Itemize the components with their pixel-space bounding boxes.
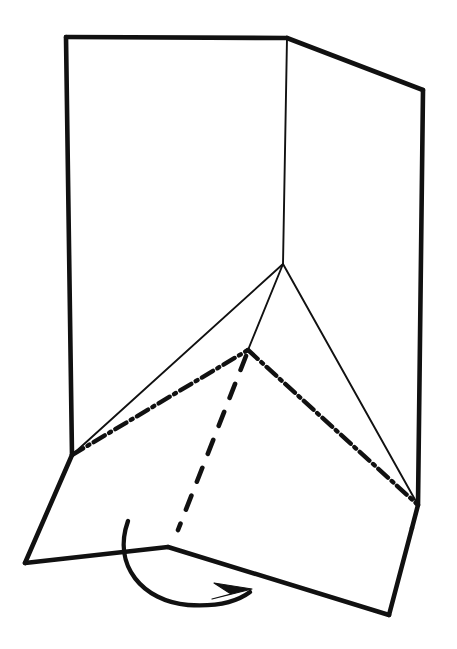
edge-flap-right [389, 528, 412, 615]
edge-right-vertical [412, 90, 423, 528]
edge-flap-left [25, 455, 72, 563]
bottom-flap-group [25, 455, 412, 615]
figure-canvas [0, 0, 457, 649]
edge-top-right-slope [287, 38, 423, 90]
fold-line-to-apex [248, 264, 283, 350]
folding-diagram-svg [0, 0, 457, 649]
fold-line-to-right-vertex [283, 264, 418, 505]
fold-line-center-vertical [283, 38, 287, 264]
rotation-arrow-group [124, 521, 252, 605]
hidden-edge-group [178, 356, 246, 530]
edge-left-vertical [66, 37, 72, 455]
interior-fold-lines [72, 38, 418, 505]
edge-flap-bottom-left [25, 547, 168, 563]
sheet-outline-group [66, 37, 423, 528]
edge-top-left-panel [66, 37, 287, 38]
fold-line-to-left-vertex [72, 264, 283, 455]
hidden-edge-dashed-vertical [178, 356, 246, 530]
crease-chain-left [72, 350, 248, 455]
crease-chain-lines [72, 350, 418, 505]
crease-chain-right [248, 350, 418, 505]
